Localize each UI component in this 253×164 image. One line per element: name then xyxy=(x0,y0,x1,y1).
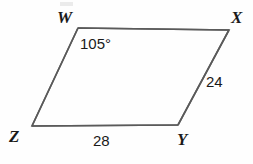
vertex-label-w: W xyxy=(57,9,72,26)
vertex-label-z: Z xyxy=(9,128,19,145)
edge-yz xyxy=(32,125,178,126)
side-length-label-xy: 24 xyxy=(206,74,223,89)
vertex-label-x: X xyxy=(231,9,242,26)
angle-measure-label-w: 105° xyxy=(80,36,111,51)
geometry-figure: W X Y Z 105° 24 28 xyxy=(0,0,253,164)
vertex-label-y: Y xyxy=(177,131,187,148)
edge-zw xyxy=(32,28,78,126)
edge-wx xyxy=(78,28,229,30)
side-length-label-zy: 28 xyxy=(93,133,110,148)
parallelogram-shape xyxy=(32,28,229,126)
